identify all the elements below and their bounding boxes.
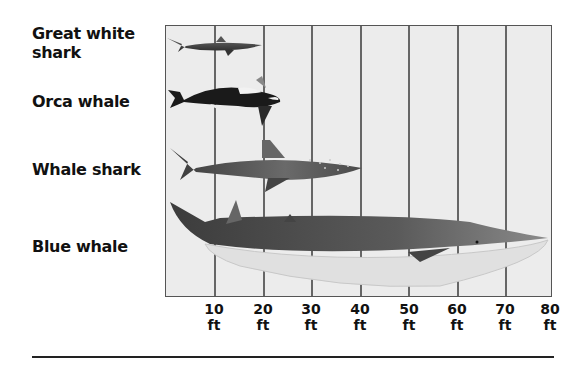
x-tick-label-10: 10ft — [194, 301, 234, 333]
orca-whale-icon — [168, 76, 280, 126]
x-tick-label-60: 60ft — [437, 301, 477, 333]
x-tick-label-40: 40ft — [340, 301, 380, 333]
x-tick-label-80: 80ft — [530, 301, 569, 333]
x-tick-label-70: 70ft — [485, 301, 525, 333]
animal-pictographs — [0, 0, 569, 365]
x-tick-label-20: 20ft — [243, 301, 283, 333]
bottom-divider — [32, 356, 554, 358]
great-white-shark-icon — [167, 36, 262, 56]
whale-shark-icon — [170, 140, 362, 192]
x-tick-label-50: 50ft — [389, 301, 429, 333]
blue-whale-icon — [170, 200, 548, 287]
x-tick-label-30: 30ft — [291, 301, 331, 333]
